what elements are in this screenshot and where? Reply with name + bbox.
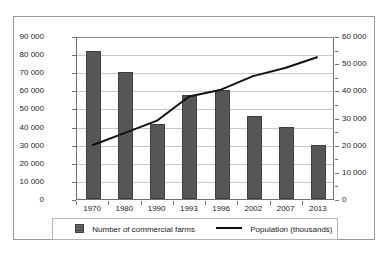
right-axis-tick-label: 50 000 xyxy=(342,60,366,68)
legend-label-bars: Number of commercial farms xyxy=(92,225,195,234)
category-tick-label: 2002 xyxy=(237,205,269,213)
left-axis-tick-label: 20 000 xyxy=(20,160,44,168)
category-axis-tick xyxy=(302,201,303,205)
category-axis-tick xyxy=(237,201,238,205)
right-axis-tick xyxy=(335,91,339,92)
left-axis-tick-label: 50 000 xyxy=(20,105,44,113)
category-tick-label: 1996 xyxy=(205,205,237,213)
right-axis-tick xyxy=(335,146,339,147)
left-axis-tick-label: 40 000 xyxy=(20,124,44,132)
left-axis-tick-label: 0 xyxy=(40,196,44,204)
category-tick-label: 2013 xyxy=(302,205,334,213)
line-swatch-icon xyxy=(216,227,242,229)
category-axis-tick xyxy=(205,201,206,205)
right-axis-tick xyxy=(335,132,338,133)
category-axis-tick xyxy=(270,201,271,205)
category-axis-tick xyxy=(173,201,174,205)
right-axis-tick-label: 60 000 xyxy=(342,33,366,41)
category-axis-tick xyxy=(108,201,109,205)
right-axis-tick-label: 30 000 xyxy=(342,115,366,123)
left-axis-tick-label: 60 000 xyxy=(20,87,44,95)
right-axis-tick-label: 20 000 xyxy=(342,142,366,150)
chart-container: 010 00020 00030 00040 00050 00060 00070 … xyxy=(13,16,375,240)
right-axis-tick xyxy=(335,119,339,120)
left-axis-tick-label: 90 000 xyxy=(20,33,44,41)
left-axis-tick-label: 10 000 xyxy=(20,178,44,186)
bar-swatch-icon xyxy=(75,224,84,233)
right-axis-tick-label: 0 xyxy=(342,196,346,204)
right-axis-tick xyxy=(335,64,339,65)
category-tick-label: 1993 xyxy=(173,205,205,213)
left-axis-tick-label: 70 000 xyxy=(20,69,44,77)
legend-label-line: Population (thousands) xyxy=(250,225,332,234)
right-axis-tick xyxy=(335,173,339,174)
right-axis-tick xyxy=(335,200,339,201)
right-axis-tick xyxy=(335,37,339,38)
right-axis-tick-label: 10 000 xyxy=(342,169,366,177)
category-tick-label: 1990 xyxy=(141,205,173,213)
category-tick-label: 2007 xyxy=(270,205,302,213)
left-axis-tick-label: 80 000 xyxy=(20,51,44,59)
legend-entry-line: Population (thousands) xyxy=(216,224,333,236)
left-axis-tick-label: 30 000 xyxy=(20,142,44,150)
right-axis-tick xyxy=(335,105,338,106)
legend-entry-bars: Number of commercial farms xyxy=(75,224,195,236)
category-axis-tick xyxy=(141,201,142,205)
right-axis-tick xyxy=(335,186,338,187)
right-axis-tick xyxy=(335,78,338,79)
right-axis-tick xyxy=(335,159,338,160)
right-axis-tick-label: 40 000 xyxy=(342,87,366,95)
category-axis-tick xyxy=(76,201,77,205)
category-tick-label: 1980 xyxy=(108,205,140,213)
plot-area xyxy=(76,37,334,200)
category-tick-label: 1970 xyxy=(76,205,108,213)
chart-legend: Number of commercial farms Population (t… xyxy=(52,218,338,240)
line-series-population xyxy=(77,37,333,199)
right-axis-tick xyxy=(335,51,338,52)
